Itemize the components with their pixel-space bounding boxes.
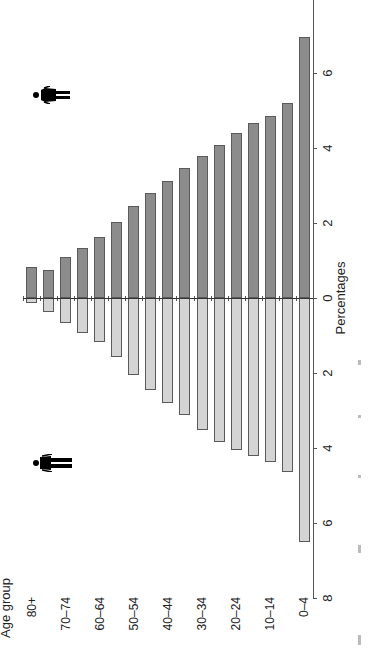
female-bar: [43, 270, 54, 298]
percentage-tick: [313, 298, 317, 299]
female-bar: [111, 222, 122, 298]
percentage-tick-label: 6: [320, 63, 336, 83]
caption-fragment: [358, 475, 361, 478]
male-bar: [60, 298, 71, 323]
male-bar: [111, 298, 122, 357]
male-bar: [299, 298, 310, 542]
male-bar: [43, 298, 54, 312]
male-bar: [77, 298, 88, 333]
male-bar: [265, 298, 276, 462]
percentage-tick: [313, 448, 317, 449]
female-bar: [179, 168, 190, 298]
male-bar: [197, 298, 208, 430]
percentage-tick-label: 4: [320, 138, 336, 158]
male-bar: [179, 298, 190, 415]
caption-fragment: [358, 635, 361, 645]
age-group-label: 30–34: [194, 597, 210, 647]
age-group-label: 60–64: [92, 597, 108, 647]
age-group-label: 50–54: [126, 597, 142, 647]
percentage-tick: [313, 148, 317, 149]
male-bar: [282, 298, 293, 472]
percentage-tick-label: 2: [320, 213, 336, 233]
age-group-label: 20–24: [228, 597, 244, 647]
female-bar: [197, 156, 208, 298]
female-bar: [265, 116, 276, 298]
percentage-tick-label: 4: [320, 438, 336, 458]
percentage-tick: [313, 223, 317, 224]
female-bar: [77, 248, 88, 298]
percentage-tick-label: 0: [320, 288, 336, 308]
caption-fragment: [358, 415, 361, 418]
caption-fragment: [358, 545, 361, 553]
female-bar: [231, 133, 242, 298]
male-icon: [32, 454, 74, 472]
female-bar: [299, 37, 310, 298]
percentage-tick-label: 6: [320, 513, 336, 533]
male-bar: [248, 298, 259, 456]
y-axis-title: Age group: [0, 558, 14, 638]
age-group-label: 40–44: [160, 597, 176, 647]
percentage-tick: [313, 373, 317, 374]
male-bar: [231, 298, 242, 450]
male-bar: [214, 298, 225, 442]
percentage-tick: [313, 598, 317, 599]
female-bar: [214, 145, 225, 298]
female-bar: [60, 257, 71, 298]
male-bar: [145, 298, 156, 390]
female-bar: [145, 193, 156, 298]
caption-fragment: [358, 360, 361, 365]
population-pyramid-chart: Age group Percentages 02462468 80+70–746…: [0, 0, 368, 655]
male-bar: [162, 298, 173, 403]
female-bar: [128, 206, 139, 298]
male-bar: [128, 298, 139, 375]
percentage-axis-line: [313, 0, 314, 598]
age-group-label: 0–4: [296, 597, 312, 647]
zero-line: [23, 298, 314, 299]
male-bar: [94, 298, 105, 342]
percentage-tick-label: 2: [320, 363, 336, 383]
percentage-tick: [313, 523, 317, 524]
female-bar: [282, 103, 293, 298]
female-icon: [32, 86, 72, 104]
percentage-tick-label: 8: [320, 588, 336, 608]
age-group-label: 10–14: [262, 597, 278, 647]
female-bar: [94, 237, 105, 298]
female-bar: [162, 181, 173, 298]
female-bar: [26, 267, 37, 299]
percentage-tick: [313, 73, 317, 74]
age-group-label: 80+: [24, 597, 40, 647]
female-bar: [248, 123, 259, 299]
age-group-label: 70–74: [58, 597, 74, 647]
